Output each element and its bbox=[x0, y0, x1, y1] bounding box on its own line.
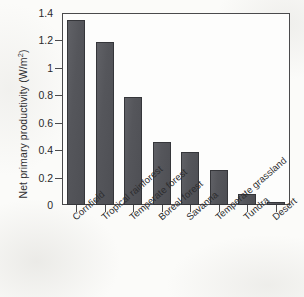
y-axis-tick-labels: 00.20.40.60.811.21.4 bbox=[0, 0, 53, 297]
bar bbox=[96, 42, 114, 205]
y-axis-tick-label: 0.6 bbox=[7, 118, 53, 128]
y-axis-tick-label: 0.2 bbox=[7, 173, 53, 183]
y-axis-tick-label: 1 bbox=[7, 63, 53, 73]
y-axis-tick-label: 1.4 bbox=[7, 8, 53, 18]
bar bbox=[67, 20, 85, 205]
chart-figure: Net primary productivity (W/m2) 00.20.40… bbox=[0, 0, 304, 297]
y-axis-tick-label: 0 bbox=[7, 200, 53, 210]
y-axis-tick-label: 1.2 bbox=[7, 35, 53, 45]
y-axis-tick-label: 0.8 bbox=[7, 90, 53, 100]
y-axis-tick-label: 0.4 bbox=[7, 145, 53, 155]
